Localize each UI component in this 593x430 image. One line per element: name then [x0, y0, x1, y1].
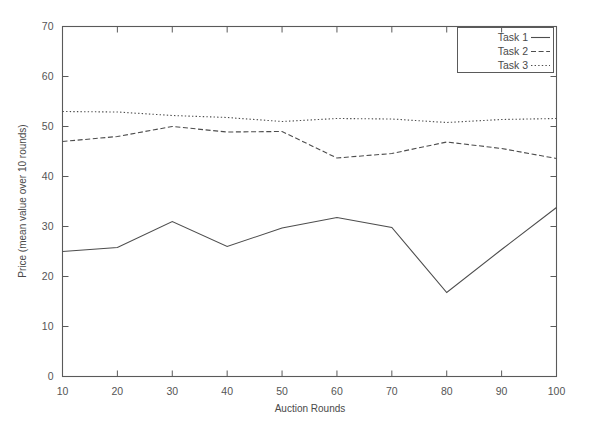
y-tick-label: 0 [48, 370, 54, 382]
y-tick-label: 30 [42, 220, 54, 232]
y-tick-label: 60 [42, 70, 54, 82]
y-axis-label: Price (mean value over 10 rounds) [17, 124, 28, 277]
x-tick-label: 10 [57, 385, 69, 397]
x-tick-label: 70 [386, 385, 398, 397]
legend-label-2: Task 2 [498, 45, 529, 57]
line-chart: 010203040506070 102030405060708090100 Au… [0, 0, 593, 430]
x-tick-label: 30 [166, 385, 178, 397]
x-tick-label: 80 [441, 385, 453, 397]
x-tick-label: 40 [221, 385, 233, 397]
x-tick-label: 50 [276, 385, 288, 397]
y-tick-label: 70 [42, 20, 54, 32]
legend-label-3: Task 3 [498, 59, 529, 71]
y-tick-label: 50 [42, 120, 54, 132]
x-tick-label: 60 [331, 385, 343, 397]
chart-page: 010203040506070 102030405060708090100 Au… [0, 0, 593, 430]
x-axis-label: Auction Rounds [275, 403, 346, 414]
x-tick-label: 100 [548, 385, 566, 397]
x-tick-label: 20 [112, 385, 124, 397]
x-tick-label: 90 [496, 385, 508, 397]
y-tick-label: 10 [42, 320, 54, 332]
y-tick-label: 40 [42, 170, 54, 182]
y-tick-label: 20 [42, 270, 54, 282]
legend-label-1: Task 1 [498, 31, 529, 43]
